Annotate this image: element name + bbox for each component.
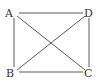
vertex-label-d: D xyxy=(84,7,93,20)
quadrilateral-diagram: A D B C xyxy=(0,0,101,82)
vertex-label-c: C xyxy=(84,67,92,80)
vertex-label-a: A xyxy=(4,7,14,20)
vertex-label-b: B xyxy=(6,67,14,80)
